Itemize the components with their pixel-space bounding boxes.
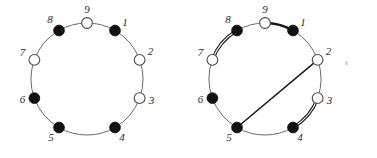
vertex-label-3: 3 (326, 94, 333, 106)
vertex-3[interactable] (134, 93, 145, 104)
vertex-9[interactable] (260, 18, 271, 29)
vertex-label-1: 1 (122, 16, 128, 28)
vertex-5[interactable] (232, 122, 243, 133)
vertex-1[interactable] (288, 25, 299, 36)
vertex-label-8: 8 (225, 13, 231, 25)
vertex-label-7: 7 (198, 46, 204, 58)
right-cycle-diagram: 123456789 (198, 3, 333, 144)
vertex-9[interactable] (82, 18, 93, 29)
graph-figure-svg: 123456789123456789 (0, 0, 377, 158)
vertex-2[interactable] (134, 54, 145, 65)
vertex-8[interactable] (54, 25, 65, 36)
vertex-label-1: 1 (300, 16, 306, 28)
vertex-label-5: 5 (48, 131, 54, 143)
vertex-label-8: 8 (47, 13, 53, 25)
speck (345, 61, 348, 65)
vertex-6[interactable] (29, 93, 40, 104)
figure-root: 123456789123456789 (0, 0, 377, 158)
vertex-2[interactable] (312, 54, 323, 65)
vertex-label-2: 2 (148, 45, 154, 57)
vertex-label-6: 6 (198, 93, 204, 105)
vertex-label-9: 9 (262, 3, 268, 15)
vertex-label-4: 4 (119, 131, 125, 143)
vertex-label-7: 7 (20, 46, 26, 58)
vertex-7[interactable] (29, 54, 40, 65)
vertex-3[interactable] (312, 93, 323, 104)
vertex-label-3: 3 (148, 94, 155, 106)
edge-4-5 (237, 128, 293, 136)
vertex-label-6: 6 (20, 93, 26, 105)
vertex-label-4: 4 (297, 131, 303, 143)
vertex-label-9: 9 (84, 3, 90, 15)
vertex-8[interactable] (232, 25, 243, 36)
vertex-5[interactable] (54, 122, 65, 133)
edge-4-5 (59, 128, 115, 136)
vertex-1[interactable] (110, 25, 121, 36)
left-cycle-diagram: 123456789 (20, 3, 155, 144)
vertex-label-2: 2 (326, 45, 332, 57)
vertex-7[interactable] (207, 54, 218, 65)
vertex-6[interactable] (207, 93, 218, 104)
vertex-label-5: 5 (226, 131, 232, 143)
